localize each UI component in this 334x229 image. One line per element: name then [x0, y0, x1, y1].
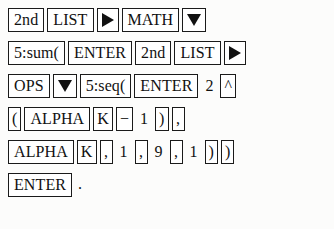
key-button[interactable]: ENTER: [8, 173, 72, 197]
key-row: (ALPHAK−1),: [8, 106, 334, 132]
key-row: ENTER.: [8, 172, 334, 198]
key-button[interactable]: −: [116, 107, 133, 131]
triangle-down-icon: [58, 80, 72, 92]
key-triangle-down-icon[interactable]: [182, 8, 206, 32]
plain-value: 1: [136, 111, 152, 127]
key-button[interactable]: ,: [100, 140, 113, 164]
key-row: 5:sum(ENTER2ndLIST: [8, 40, 334, 66]
triangle-right-icon: [102, 13, 114, 27]
key-triangle-right-icon[interactable]: [97, 8, 119, 32]
key-button[interactable]: K: [93, 107, 113, 131]
key-row: OPS5:seq(ENTER2^: [8, 73, 334, 99]
key-button[interactable]: ): [205, 140, 218, 164]
key-row: 2ndLISTMATH: [8, 7, 334, 33]
key-button[interactable]: ALPHA: [24, 107, 90, 131]
plain-value: 2: [201, 78, 217, 94]
key-button[interactable]: LIST: [174, 41, 220, 65]
key-button[interactable]: ,: [135, 140, 148, 164]
key-button[interactable]: 5:seq(: [80, 74, 132, 98]
triangle-right-icon: [229, 46, 241, 60]
key-triangle-down-icon[interactable]: [53, 74, 77, 98]
plain-value: 1: [116, 144, 132, 160]
key-button[interactable]: ): [155, 107, 168, 131]
key-button[interactable]: 5:sum(: [8, 41, 65, 65]
key-button[interactable]: 2nd: [135, 41, 171, 65]
key-button[interactable]: ,: [170, 140, 183, 164]
keystroke-sequence: 2ndLISTMATH5:sum(ENTER2ndLISTOPS5:seq(EN…: [0, 0, 334, 205]
key-button[interactable]: ,: [172, 107, 185, 131]
key-button[interactable]: (: [8, 107, 21, 131]
key-button[interactable]: MATH: [122, 8, 180, 32]
key-button[interactable]: OPS: [8, 74, 50, 98]
key-button[interactable]: ): [221, 140, 234, 164]
key-button[interactable]: 2nd: [8, 8, 44, 32]
key-button[interactable]: K: [77, 140, 97, 164]
key-button[interactable]: LIST: [47, 8, 93, 32]
plain-value: 9: [151, 144, 167, 160]
key-row: ALPHAK,1,9,1)): [8, 139, 334, 165]
key-button[interactable]: ALPHA: [8, 140, 74, 164]
key-button[interactable]: ^: [220, 74, 236, 98]
sentence-period: .: [75, 176, 82, 194]
plain-value: 1: [186, 144, 202, 160]
triangle-down-icon: [187, 14, 201, 26]
key-triangle-right-icon[interactable]: [224, 41, 246, 65]
key-button[interactable]: ENTER: [68, 41, 132, 65]
key-button[interactable]: ENTER: [134, 74, 198, 98]
